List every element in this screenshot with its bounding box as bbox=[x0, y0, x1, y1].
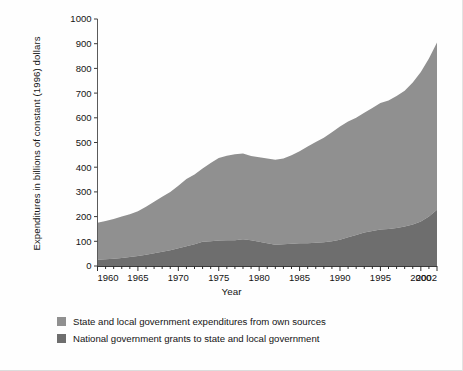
y-tick-label: 100 bbox=[76, 236, 92, 247]
legend-label-state-local: State and local government expenditures … bbox=[73, 316, 326, 327]
y-tick-label: 400 bbox=[76, 162, 92, 173]
x-tick-label: 2002 bbox=[416, 272, 437, 283]
x-tick-label: 1960 bbox=[98, 272, 119, 283]
y-tick-label: 800 bbox=[76, 63, 92, 74]
y-tick-label: 0 bbox=[86, 260, 91, 271]
y-tick-label: 600 bbox=[76, 112, 92, 123]
x-axis-tick-labels: 1960196519701975198019851990199520002002 bbox=[98, 272, 438, 283]
chart-figure: 01002003004005006007008009001000 1960196… bbox=[0, 0, 463, 371]
plot-area: 01002003004005006007008009001000 1960196… bbox=[0, 0, 463, 305]
y-axis-ticks bbox=[94, 19, 98, 266]
x-tick-label: 1970 bbox=[168, 272, 189, 283]
legend-label-national-grants: National government grants to state and … bbox=[73, 333, 319, 344]
x-axis-title: Year bbox=[0, 286, 463, 297]
stacked-area-chart: 01002003004005006007008009001000 1960196… bbox=[0, 0, 463, 305]
y-axis-title: Expenditures in billions of constant (19… bbox=[31, 14, 42, 274]
chart-legend: State and local government expenditures … bbox=[57, 313, 457, 347]
area-series-group bbox=[98, 42, 438, 266]
x-tick-label: 1985 bbox=[289, 272, 310, 283]
x-tick-label: 1965 bbox=[127, 272, 148, 283]
area-state-local-own-sources bbox=[98, 42, 438, 259]
y-tick-label: 200 bbox=[76, 211, 92, 222]
y-tick-label: 500 bbox=[76, 137, 92, 148]
legend-swatch-national-grants bbox=[57, 334, 66, 343]
y-tick-label: 1000 bbox=[70, 13, 91, 24]
y-tick-label: 700 bbox=[76, 88, 92, 99]
legend-item-state-local: State and local government expenditures … bbox=[57, 313, 457, 330]
legend-swatch-state-local bbox=[57, 317, 66, 326]
y-tick-label: 300 bbox=[76, 186, 92, 197]
x-tick-label: 1995 bbox=[370, 272, 391, 283]
x-tick-label: 1990 bbox=[329, 272, 350, 283]
y-axis-tick-labels: 01002003004005006007008009001000 bbox=[70, 13, 91, 271]
y-tick-label: 900 bbox=[76, 38, 92, 49]
x-tick-label: 1975 bbox=[208, 272, 229, 283]
legend-item-national-grants: National government grants to state and … bbox=[57, 330, 457, 347]
x-tick-label: 1980 bbox=[249, 272, 270, 283]
